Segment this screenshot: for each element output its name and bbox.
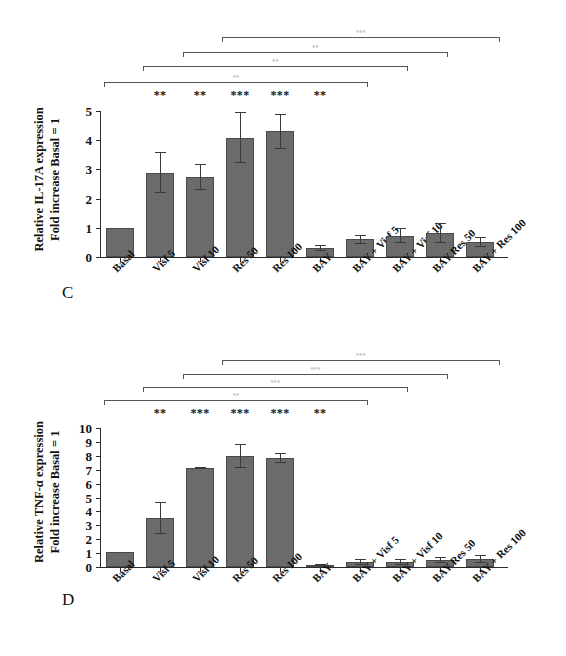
y-tick-label-D-5: 5 — [66, 492, 92, 505]
y-tick-label-C-4: 4 — [66, 134, 92, 147]
y-tick-D-2 — [96, 539, 100, 540]
error-bar-stem — [400, 228, 401, 243]
error-bar-cap-top — [475, 555, 486, 556]
y-tick-D-7 — [96, 470, 100, 471]
error-bar-cap-top — [435, 223, 446, 224]
error-bar-cap-bottom — [475, 246, 486, 247]
error-bar-cap-bottom — [395, 242, 406, 243]
bar-D-2 — [186, 468, 215, 567]
significance-stars-C-2: ** — [194, 88, 207, 103]
y-axis-title-D: Relative TNF-α expression Fold increase … — [32, 412, 63, 572]
error-bar-cap-bottom — [235, 467, 246, 468]
y-axis-title-C-line2: Fold increase Basal = 1 — [48, 118, 62, 241]
error-bar-cap-top — [275, 114, 286, 115]
y-tick-D-6 — [96, 484, 100, 485]
comparison-bracket-label-D-2: ◦◦◦ — [310, 364, 320, 373]
significance-stars-D-2: *** — [191, 406, 210, 421]
y-tick-C-4 — [96, 140, 100, 141]
y-tick-label-D-9: 9 — [66, 436, 92, 449]
y-tick-label-C-3: 3 — [66, 163, 92, 176]
error-bar-cap-top — [395, 559, 406, 560]
y-tick-label-D-0: 0 — [66, 561, 92, 574]
panel-C: C Relative IL-17A expression Fold increa… — [0, 0, 566, 340]
significance-stars-D-3: *** — [231, 406, 250, 421]
error-bar-D-4 — [273, 453, 287, 463]
bar-D-3 — [226, 456, 255, 567]
significance-stars-C-5: ** — [314, 88, 327, 103]
bar-D-4 — [266, 458, 295, 567]
error-bar-stem — [160, 502, 161, 534]
y-tick-label-D-6: 6 — [66, 478, 92, 491]
y-tick-D-1 — [96, 553, 100, 554]
comparison-bracket-label-C-2: ◦◦ — [312, 42, 319, 51]
error-bar-C-4 — [273, 114, 287, 149]
y-tick-label-C-0: 0 — [66, 251, 92, 264]
significance-stars-C-4: *** — [271, 88, 290, 103]
y-tick-D-9 — [96, 442, 100, 443]
comparison-bracket-C-1 — [143, 66, 408, 71]
y-axis-line-D — [100, 428, 101, 568]
error-bar-cap-bottom — [275, 148, 286, 149]
error-bar-cap-bottom — [275, 462, 286, 463]
error-bar-cap-top — [355, 235, 366, 236]
error-bar-cap-top — [235, 112, 246, 113]
comparison-bracket-D-1 — [143, 387, 408, 392]
comparison-bracket-D-0 — [104, 400, 368, 405]
y-axis-line-C — [100, 111, 101, 258]
error-bar-cap-bottom — [195, 468, 206, 469]
error-bar-cap-top — [475, 237, 486, 238]
y-tick-label-D-10: 10 — [66, 422, 92, 435]
y-tick-D-0 — [96, 567, 100, 568]
comparison-bracket-label-D-3: ◦◦◦ — [356, 350, 366, 359]
error-bar-cap-bottom — [235, 162, 246, 163]
error-bar-C-9 — [473, 237, 487, 247]
y-tick-label-D-1: 1 — [66, 547, 92, 560]
y-tick-label-C-1: 1 — [66, 222, 92, 235]
error-bar-cap-bottom — [195, 189, 206, 190]
error-bar-cap-top — [315, 245, 326, 246]
y-tick-D-10 — [96, 428, 100, 429]
y-tick-label-D-2: 2 — [66, 533, 92, 546]
error-bar-C-2 — [193, 164, 207, 190]
y-tick-label-D-3: 3 — [66, 519, 92, 532]
y-tick-C-3 — [96, 169, 100, 170]
comparison-bracket-label-C-1: ◦◦ — [272, 56, 279, 65]
error-bar-cap-top — [155, 502, 166, 503]
y-tick-label-C-5: 5 — [66, 105, 92, 118]
y-axis-title-C: Relative IL-17A expression Fold increase… — [32, 97, 63, 262]
comparison-bracket-C-3 — [222, 37, 500, 42]
panel-D: D Relative TNF-α expression Fold increas… — [0, 340, 566, 656]
error-bar-C-3 — [233, 112, 247, 163]
significance-stars-D-4: *** — [271, 406, 290, 421]
error-bar-cap-top — [355, 559, 366, 560]
panel-letter-C: C — [62, 283, 73, 303]
error-bar-stem — [200, 164, 201, 190]
y-axis-title-D-line2: Fold increase Basal = 1 — [48, 431, 62, 554]
comparison-bracket-D-3 — [222, 360, 500, 365]
error-bar-stem — [240, 444, 241, 468]
error-bar-stem — [280, 114, 281, 149]
error-bar-stem — [240, 112, 241, 163]
error-bar-C-6 — [353, 235, 367, 244]
y-tick-label-C-2: 2 — [66, 193, 92, 206]
error-bar-cap-bottom — [155, 192, 166, 193]
error-bar-D-3 — [233, 444, 247, 468]
y-tick-label-D-4: 4 — [66, 505, 92, 518]
y-tick-D-8 — [96, 456, 100, 457]
error-bar-cap-top — [435, 557, 446, 558]
error-bar-C-8 — [433, 223, 447, 243]
error-bar-cap-bottom — [155, 533, 166, 534]
error-bar-cap-top — [275, 453, 286, 454]
error-bar-cap-top — [395, 228, 406, 229]
error-bar-cap-top — [155, 152, 166, 153]
comparison-bracket-label-C-0: ◦◦ — [233, 72, 240, 81]
error-bar-cap-bottom — [355, 243, 366, 244]
significance-stars-C-1: ** — [154, 88, 167, 103]
comparison-bracket-C-0 — [104, 82, 368, 87]
y-tick-D-5 — [96, 498, 100, 499]
error-bar-D-1 — [153, 502, 167, 534]
y-axis-title-C-line1: Relative IL-17A expression — [32, 107, 46, 251]
y-tick-D-3 — [96, 525, 100, 526]
error-bar-cap-top — [195, 164, 206, 165]
bar-C-4 — [266, 131, 295, 257]
